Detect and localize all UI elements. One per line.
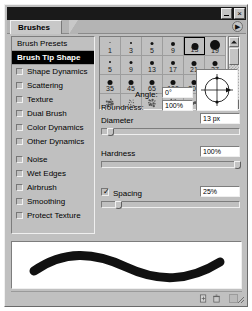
brush-preset-cell[interactable]: 35 bbox=[100, 75, 121, 93]
sidebar-item-label: Color Dynamics bbox=[27, 123, 83, 132]
brush-tip-dot bbox=[110, 42, 111, 43]
checkbox-dual-brush[interactable] bbox=[16, 110, 23, 117]
sidebar-item-label: Brush Presets bbox=[17, 39, 67, 48]
brush-preset-cell[interactable]: 9 bbox=[163, 37, 184, 55]
brush-preset-cell[interactable]: 9 bbox=[121, 56, 142, 74]
sidebar-item-shape-dynamics[interactable]: Shape Dynamics bbox=[12, 65, 94, 79]
sidebar-item-label: Noise bbox=[27, 155, 47, 164]
sidebar-item-smoothing[interactable]: Smoothing bbox=[12, 195, 94, 209]
minimize-icon bbox=[224, 15, 229, 16]
hardness-slider[interactable] bbox=[101, 161, 240, 168]
sidebar-item-label: Wet Edges bbox=[27, 169, 66, 178]
sidebar-item-label: Scattering bbox=[27, 81, 63, 90]
checkbox-other-dynamics[interactable] bbox=[16, 138, 23, 145]
angle-roundness-diagram bbox=[197, 70, 237, 110]
sidebar-item-label: Brush Tip Shape bbox=[17, 53, 80, 62]
brush-size-label: 5 bbox=[142, 47, 162, 55]
minimize-button[interactable] bbox=[221, 8, 232, 19]
brush-tip-dot bbox=[171, 61, 175, 65]
tab-brushes[interactable]: Brushes bbox=[10, 20, 62, 34]
brush-size-label: 5 bbox=[100, 66, 120, 74]
brush-size-label: 9 bbox=[121, 66, 141, 74]
spacing-value-field[interactable]: 25% bbox=[200, 186, 240, 197]
angle-label: Angle: bbox=[135, 90, 158, 99]
sidebar-item-scattering[interactable]: Scattering bbox=[12, 79, 94, 93]
checkbox-smoothing[interactable] bbox=[16, 198, 23, 205]
brush-stroke-preview bbox=[11, 241, 242, 289]
diameter-slider[interactable] bbox=[101, 128, 240, 135]
brush-size-label: 35 bbox=[100, 85, 120, 93]
hardness-label: Hardness bbox=[101, 149, 135, 158]
scrollbar-thumb[interactable] bbox=[229, 48, 239, 65]
diameter-label: Diameter bbox=[101, 116, 133, 125]
stroke-preview-curve bbox=[12, 242, 241, 288]
brush-preset-cell[interactable]: 3 bbox=[121, 37, 142, 55]
close-button[interactable]: × bbox=[234, 8, 245, 19]
checkbox-protect-texture[interactable] bbox=[16, 212, 23, 219]
brushes-panel: × Brushes ▶ Brush PresetsBrush Tip Shape… bbox=[4, 4, 248, 307]
brush-preset-cell[interactable]: 19 bbox=[205, 37, 226, 55]
brush-tip-dot bbox=[171, 42, 175, 46]
check-icon: ✓ bbox=[103, 188, 110, 196]
brush-preset-cell[interactable]: 13 bbox=[142, 56, 163, 74]
checkbox-scattering[interactable] bbox=[16, 82, 23, 89]
angle-value-field[interactable]: 0° bbox=[162, 87, 193, 98]
brush-preset-cell[interactable]: 1 bbox=[100, 37, 121, 55]
sidebar-item-label: Smoothing bbox=[27, 197, 65, 206]
brush-size-label: 13 bbox=[185, 46, 204, 54]
brush-preset-cell[interactable]: 5 bbox=[100, 56, 121, 74]
brush-tip-dot bbox=[151, 42, 154, 45]
brush-preset-cell[interactable]: 13 bbox=[184, 37, 205, 55]
sidebar-item-color-dynamics[interactable]: Color Dynamics bbox=[12, 121, 94, 135]
checkbox-airbrush[interactable] bbox=[16, 184, 23, 191]
sidebar-item-protect-texture[interactable]: Protect Texture bbox=[12, 209, 94, 223]
window-titlebar[interactable]: × bbox=[7, 7, 246, 20]
brush-size-label: 19 bbox=[205, 47, 225, 55]
sidebar-item-label: Texture bbox=[27, 95, 53, 104]
brush-preset-cell[interactable]: 17 bbox=[163, 56, 184, 74]
sidebar-item-label: Other Dynamics bbox=[27, 137, 84, 146]
brush-options-list[interactable]: Brush PresetsBrush Tip ShapeShape Dynami… bbox=[11, 36, 95, 234]
scroll-up-button[interactable] bbox=[229, 37, 239, 47]
brush-tip-dot bbox=[130, 61, 133, 64]
diameter-slider-thumb[interactable] bbox=[107, 128, 114, 136]
roundness-value-field[interactable]: 100% bbox=[162, 100, 193, 111]
spacing-slider-thumb[interactable] bbox=[115, 201, 122, 209]
brush-angle-control[interactable] bbox=[196, 69, 238, 111]
spacing-checkbox[interactable]: ✓ bbox=[101, 188, 109, 196]
trash-icon[interactable] bbox=[212, 294, 221, 303]
tab-strip: Brushes ▶ bbox=[7, 20, 246, 34]
close-icon: × bbox=[235, 9, 244, 18]
brush-grid-row: 13591319 bbox=[100, 37, 226, 56]
sidebar-item-texture[interactable]: Texture bbox=[12, 93, 94, 107]
sidebar-item-label: Dual Brush bbox=[27, 109, 67, 118]
hardness-value-field[interactable]: 100% bbox=[200, 146, 240, 157]
checkbox-shape-dynamics[interactable] bbox=[16, 68, 23, 75]
checkbox-noise[interactable] bbox=[16, 156, 23, 163]
checkbox-texture[interactable] bbox=[16, 96, 23, 103]
new-brush-icon[interactable] bbox=[199, 294, 208, 303]
spacing-slider[interactable] bbox=[101, 201, 240, 208]
brush-tip-dot bbox=[150, 61, 154, 65]
brush-size-label: 3 bbox=[121, 47, 141, 55]
brush-size-label: 1 bbox=[100, 47, 120, 55]
brush-size-label: 9 bbox=[163, 47, 183, 55]
brush-tip-dot bbox=[109, 61, 111, 63]
diameter-value-field[interactable]: 13 px bbox=[200, 113, 240, 124]
sidebar-item-wet-edges[interactable]: Wet Edges bbox=[12, 167, 94, 181]
checkbox-color-dynamics[interactable] bbox=[16, 124, 23, 131]
brush-size-label: 17 bbox=[163, 66, 183, 74]
sidebar-item-dual-brush[interactable]: Dual Brush bbox=[12, 107, 94, 121]
sidebar-item-noise[interactable]: Noise bbox=[12, 153, 94, 167]
sidebar-item-brush-tip-shape[interactable]: Brush Tip Shape bbox=[12, 51, 94, 65]
brush-size-label: 13 bbox=[142, 66, 162, 74]
brush-preset-cell[interactable]: 5 bbox=[142, 37, 163, 55]
resize-grip[interactable] bbox=[236, 295, 245, 304]
sidebar-item-other-dynamics[interactable]: Other Dynamics bbox=[12, 135, 94, 149]
roundness-label: Roundness: bbox=[101, 103, 144, 112]
panel-menu-icon[interactable]: ▶ bbox=[232, 21, 243, 32]
checkbox-wet-edges[interactable] bbox=[16, 170, 23, 177]
sidebar-item-brush-presets[interactable]: Brush Presets bbox=[12, 37, 94, 51]
hardness-slider-thumb[interactable] bbox=[234, 161, 241, 169]
sidebar-item-airbrush[interactable]: Airbrush bbox=[12, 181, 94, 195]
